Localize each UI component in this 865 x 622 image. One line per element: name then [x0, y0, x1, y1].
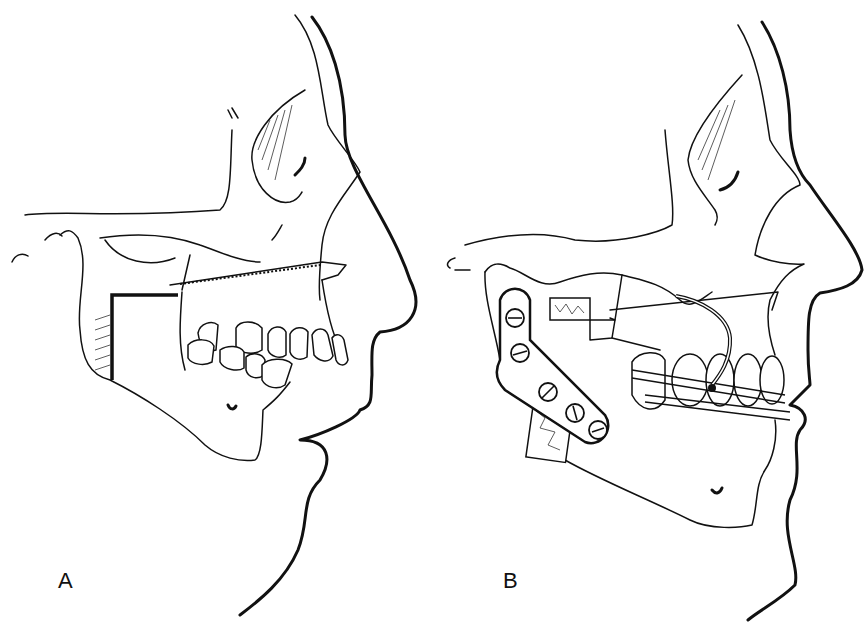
- panel-label-a: A: [58, 568, 73, 594]
- panel-a-drawing: [12, 15, 416, 615]
- ramus-step-cut-a: [112, 295, 178, 380]
- nasal-bone-b: [738, 25, 804, 355]
- soft-tissue-profile-a: [240, 17, 416, 615]
- zygomatic-arch-a: [25, 108, 238, 215]
- illustration-canvas: [0, 0, 865, 622]
- panel-label-b: B: [503, 568, 518, 594]
- panel-b-drawing: [448, 22, 862, 620]
- zygomatic-arch-b: [465, 130, 673, 245]
- orbit-b: [688, 75, 742, 225]
- bone-graft-upper-b: [550, 298, 590, 320]
